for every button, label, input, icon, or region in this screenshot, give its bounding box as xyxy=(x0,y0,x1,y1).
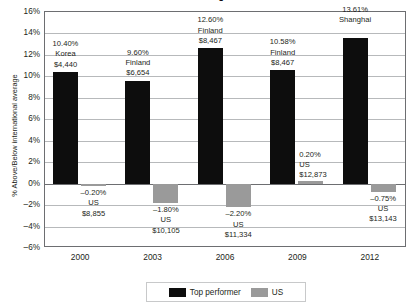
data-label-top-performer: 10.40%Korea$4,440 xyxy=(26,39,106,70)
y-axis-tick: 14% xyxy=(6,28,40,37)
legend-label-us: US xyxy=(272,288,283,297)
y-axis-tick: 0% xyxy=(6,178,40,187)
x-axis-tick: 2009 xyxy=(267,252,327,262)
bar-top-performer[interactable] xyxy=(198,48,223,183)
data-label-line: US xyxy=(54,198,134,208)
data-label-line: $6,654 xyxy=(98,68,178,78)
y-axis-tick: 8% xyxy=(6,92,40,101)
x-axis-tick: 2006 xyxy=(195,252,255,262)
data-label-top-performer: 12.60%Finland$8,467 xyxy=(170,15,250,46)
bar-us[interactable] xyxy=(226,184,251,208)
data-label-line: $4,440 xyxy=(26,60,106,70)
bar-top-performer[interactable] xyxy=(343,38,368,184)
data-label-line: 10.58% xyxy=(243,37,323,47)
bar-us[interactable] xyxy=(153,184,178,203)
data-label-us: –1.80%US$10,105 xyxy=(126,205,206,236)
data-label-us: 0.20%US$12,873 xyxy=(299,150,326,181)
data-label-line: US xyxy=(126,215,206,225)
y-axis-tick: 4% xyxy=(6,135,40,144)
data-label-line: –1.80% xyxy=(126,205,206,215)
data-label-line: 0.20% xyxy=(299,150,326,160)
data-label-line: –0.75% xyxy=(343,194,414,204)
data-label-line: 13.61% xyxy=(315,5,395,15)
bar-us[interactable] xyxy=(371,184,396,192)
bar-us[interactable] xyxy=(81,184,106,186)
data-label-line: $10,105 xyxy=(126,226,206,236)
legend-label-top-performer: Top performer xyxy=(190,288,241,297)
data-label-top-performer: 9.60%Finland$6,654 xyxy=(98,48,178,79)
y-axis-tick: 6% xyxy=(6,114,40,123)
y-axis-tick: –6% xyxy=(6,243,40,252)
y-axis-tick: 2% xyxy=(6,157,40,166)
legend-item-us[interactable]: US xyxy=(251,288,283,297)
legend-swatch-top-performer xyxy=(169,288,186,297)
data-label-top-performer: 10.58%Finland$8,467 xyxy=(243,37,323,68)
legend-swatch-us xyxy=(251,288,268,297)
data-label-us: –0.20%US$8,855 xyxy=(54,188,134,219)
data-label-line: $8,467 xyxy=(170,36,250,46)
x-axis-tick: 2012 xyxy=(340,252,400,262)
data-label-line: 10.40% xyxy=(26,39,106,49)
plot-area: 10.40%Korea$4,440–0.20%US$8,8559.60%Finl… xyxy=(44,11,406,247)
data-label-line: $11,334 xyxy=(198,230,278,240)
data-label-line: $8,467 xyxy=(243,58,323,68)
data-label-line: 9.60% xyxy=(98,48,178,58)
legend-item-top-performer[interactable]: Top performer xyxy=(169,288,241,297)
bar-top-performer[interactable] xyxy=(125,81,150,184)
data-label-line: Finland xyxy=(98,58,178,68)
data-label-line: –0.20% xyxy=(54,188,134,198)
data-label-top-performer: 13.61%Shanghai xyxy=(315,5,395,26)
data-label-us: –2.20%US$11,334 xyxy=(198,209,278,240)
data-label-line: US xyxy=(343,204,414,214)
chart-title: Science: Age 15 xyxy=(0,0,414,1)
y-axis-tick: 10% xyxy=(6,71,40,80)
data-label-line: Finland xyxy=(170,26,250,36)
x-axis-tick: 2003 xyxy=(123,252,183,262)
data-label-line: US xyxy=(198,220,278,230)
data-label-line: $12,873 xyxy=(299,170,326,180)
data-label-us: –0.75%US$13,143 xyxy=(343,194,414,225)
data-label-line: 12.60% xyxy=(170,15,250,25)
data-label-line: US xyxy=(299,160,326,170)
y-axis-tick: –4% xyxy=(6,221,40,230)
x-axis-tick: 2000 xyxy=(50,252,110,262)
data-label-line: Korea xyxy=(26,49,106,59)
y-axis-tick: 16% xyxy=(6,7,40,16)
y-axis-tick: –2% xyxy=(6,200,40,209)
bar-us[interactable] xyxy=(298,181,323,183)
data-label-line: $8,855 xyxy=(54,209,134,219)
chart-legend: Top performer US xyxy=(146,282,306,302)
bar-top-performer[interactable] xyxy=(270,70,295,183)
data-label-line: Shanghai xyxy=(315,15,395,25)
bar-top-performer[interactable] xyxy=(53,72,78,184)
data-label-line: $13,143 xyxy=(343,214,414,224)
data-label-line: –2.20% xyxy=(198,209,278,219)
data-label-line: Finland xyxy=(243,48,323,58)
